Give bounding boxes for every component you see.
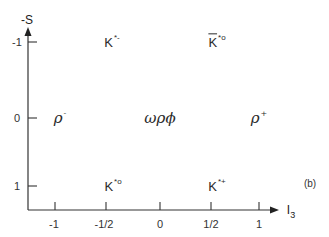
- x-tick-label-half: 1/2: [203, 219, 218, 230]
- x-tick-label-minus1: -1: [49, 219, 59, 230]
- panel-label: (b): [304, 179, 316, 189]
- x-tick-label-0: 0: [157, 219, 163, 230]
- x-axis-title-subscript: 3: [290, 210, 295, 220]
- x-tick-label-1: 1: [256, 219, 262, 230]
- x-axis-title: I3: [287, 204, 295, 219]
- state-k-star-plus: K*+: [208, 179, 225, 192]
- x-axis-arrowhead-icon: [270, 207, 279, 214]
- y-tick-label-1: 1: [14, 181, 20, 192]
- y-axis-arrowhead-icon: [25, 27, 32, 36]
- y-tick-label-0: 0: [14, 113, 20, 124]
- state-k-star-zero: K*o: [104, 179, 121, 192]
- y-axis-title: -S: [21, 14, 33, 26]
- state-k-star-minus: K*-: [104, 35, 119, 48]
- state-omega-rho-phi: ωρϕ: [144, 111, 175, 126]
- state-rho-minus: ρ-: [54, 111, 67, 126]
- state-kbar-star-zero: K*o: [208, 35, 225, 48]
- state-rho-plus: ρ+: [251, 111, 268, 126]
- x-tick-label-minus-half: -1/2: [95, 219, 114, 230]
- y-tick-label-minus1: -1: [12, 37, 22, 48]
